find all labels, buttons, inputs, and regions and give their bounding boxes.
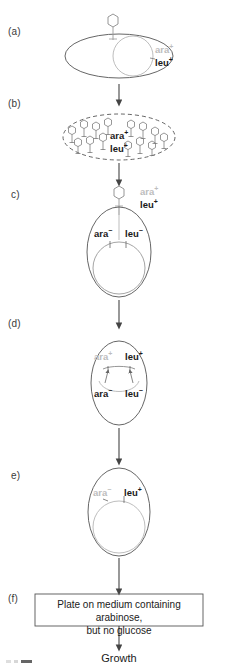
gene-sign: + bbox=[139, 350, 143, 357]
gene-label-leu-minus-c: leu− bbox=[125, 228, 143, 239]
gene-sign: + bbox=[124, 142, 128, 149]
gene-name: ara bbox=[155, 44, 169, 55]
panel-letter-a: (a) bbox=[8, 26, 21, 37]
gene-label-ara-minus-d: ara− bbox=[94, 388, 112, 399]
gene-label-ara-plus-a: ara+ bbox=[155, 44, 173, 55]
gene-sign: − bbox=[107, 486, 111, 493]
gene-sign: + bbox=[169, 56, 173, 63]
gene-sign: + bbox=[138, 486, 142, 493]
donor-chromosome bbox=[113, 36, 153, 76]
gene-name: leu bbox=[125, 388, 139, 399]
crossover-line-left bbox=[105, 371, 108, 383]
gene-name: leu bbox=[140, 199, 154, 210]
crossover-line-right bbox=[130, 371, 133, 383]
gene-name: ara bbox=[110, 130, 124, 141]
gene-name: leu bbox=[125, 351, 139, 362]
plating-instruction-text: Plate on medium containing arabinose, bu… bbox=[37, 598, 201, 637]
diagram-canvas bbox=[0, 0, 238, 667]
gene-name: ara bbox=[93, 487, 107, 498]
gene-name: leu bbox=[155, 57, 169, 68]
gene-name: leu bbox=[124, 487, 138, 498]
gene-name: ara bbox=[94, 228, 108, 239]
gene-label-leu-plus-a: leu+ bbox=[155, 57, 173, 68]
gene-label-leu-plus-e: leu+ bbox=[124, 487, 142, 498]
panel-letter-c: c) bbox=[11, 189, 20, 200]
transduction-diagram: (a) (b) c) (d) e) (f) ara+ leu+ ara+ leu… bbox=[0, 0, 238, 667]
gene-sign: − bbox=[139, 387, 143, 394]
gene-sign: + bbox=[124, 129, 128, 136]
gene-label-ara-minus-c: ara− bbox=[94, 228, 112, 239]
gene-sign: + bbox=[108, 350, 112, 357]
injecting-phage-head-icon bbox=[114, 186, 124, 199]
scan-artifact bbox=[6, 660, 32, 663]
gene-label-ara-minus-e: ara− bbox=[93, 487, 111, 498]
gene-sign: + bbox=[154, 185, 158, 192]
phage-head-icon bbox=[108, 14, 118, 27]
panel-letter-b: (b) bbox=[8, 98, 21, 109]
gene-name: ara bbox=[94, 388, 108, 399]
gene-label-leu-plus-c: leu+ bbox=[140, 199, 158, 210]
gene-name: leu bbox=[125, 228, 139, 239]
gene-label-ara-plus-b: ara+ bbox=[110, 130, 128, 141]
gene-label-ara-plus-d: ara+ bbox=[94, 351, 112, 362]
gene-name: ara bbox=[140, 186, 154, 197]
gene-sign: − bbox=[108, 387, 112, 394]
gene-label-ara-plus-c: ara+ bbox=[140, 186, 158, 197]
panel-letter-e: e) bbox=[11, 470, 20, 481]
gene-sign: − bbox=[108, 227, 112, 234]
gene-label-leu-plus-b: leu+ bbox=[110, 143, 128, 154]
gene-name: leu bbox=[110, 143, 124, 154]
gene-sign: + bbox=[154, 198, 158, 205]
gene-label-leu-minus-d: leu− bbox=[125, 388, 143, 399]
gene-label-leu-plus-d: leu+ bbox=[125, 351, 143, 362]
recombinant-chromosome bbox=[93, 501, 145, 553]
recipient-chromosome bbox=[93, 242, 145, 294]
panel-letter-f: (f) bbox=[8, 593, 18, 604]
growth-outcome-label: Growth bbox=[0, 652, 238, 664]
gene-sign: + bbox=[169, 43, 173, 50]
gene-name: ara bbox=[94, 351, 108, 362]
gene-sign: − bbox=[139, 227, 143, 234]
donor-cell-outline bbox=[65, 34, 173, 78]
panel-letter-d: (d) bbox=[8, 318, 21, 329]
